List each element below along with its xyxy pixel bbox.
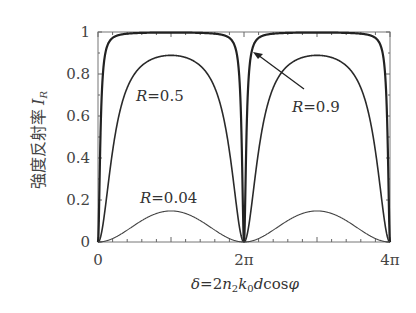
y-tick-0.8: 0.8: [66, 65, 90, 83]
annotation-r-0.9: R=0.9: [291, 98, 340, 116]
y-tick-labels: 1 0.8 0.6 0.4 0.2 0: [66, 23, 90, 251]
annotation-r-0.04: R=0.04: [139, 189, 197, 207]
x-tick-4pi: 4π: [380, 251, 400, 269]
x-tick-0: 0: [93, 251, 103, 269]
y-tick-1: 1: [80, 23, 90, 41]
y-tick-0.6: 0.6: [66, 107, 90, 125]
series-r-0.9: [98, 33, 390, 242]
reflectance-chart: 1 0.8 0.6 0.4 0.2 0 0 2π 4π δ=2n2k0dcosφ…: [0, 0, 416, 313]
annotation-r-0.5: R=0.5: [135, 87, 184, 105]
x-axis-label: δ=2n2k0dcosφ: [191, 275, 299, 294]
x-tick-2pi: 2π: [234, 251, 254, 269]
y-tick-0: 0: [80, 233, 90, 251]
y-tick-0.4: 0.4: [66, 149, 90, 167]
arrow-icon: [253, 52, 304, 89]
y-axis-label: 強度反射率IR: [29, 91, 49, 189]
y-tick-0.2: 0.2: [66, 191, 90, 209]
x-tick-labels: 0 2π 4π: [93, 251, 400, 269]
